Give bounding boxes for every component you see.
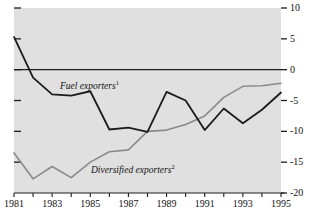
x-tick-label: 1981	[0, 199, 30, 209]
y-tick-label: 5	[290, 34, 295, 44]
y-tick-label: -10	[290, 126, 303, 136]
y-tick-label: -15	[290, 157, 303, 167]
y-tick-label: -20	[290, 188, 303, 198]
y-tick-label: -5	[290, 96, 298, 106]
x-tick-label: 1985	[74, 199, 106, 209]
series-label-diversified-text: Diversified exporters	[91, 165, 171, 175]
series-label-fuel-exporters: Fuel exporters1	[60, 79, 119, 91]
series-label-diversified-exporters: Diversified exporters2	[91, 163, 175, 175]
series-lines	[14, 37, 281, 179]
x-tick-label: 1991	[189, 199, 221, 209]
x-tick-label: 1989	[151, 199, 183, 209]
series-label-fuel-text: Fuel exporters	[60, 81, 116, 91]
x-tick-label: 1983	[36, 199, 68, 209]
chart-svg	[0, 0, 313, 223]
x-tick-label: 1995	[265, 199, 297, 209]
x-tick-label: 1993	[227, 199, 259, 209]
series-label-fuel-footnote: 1	[116, 79, 119, 86]
x-tick-label: 1987	[112, 199, 144, 209]
y-tick-label: 0	[290, 65, 295, 75]
y-tick-label: 10	[290, 3, 300, 13]
series-label-diversified-footnote: 2	[171, 163, 174, 170]
chart-figure: 1050-5-10-15-20 198119831985198719891991…	[0, 0, 313, 223]
